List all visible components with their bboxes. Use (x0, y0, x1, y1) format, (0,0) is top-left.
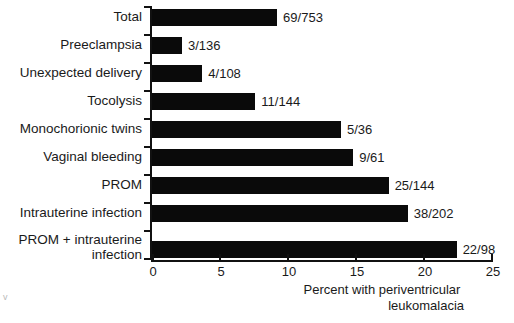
x-tick (151, 254, 153, 262)
category-tick (144, 202, 152, 204)
bar (152, 121, 341, 138)
bar-row: PROM + intrauterine infection22/98 (0, 232, 514, 260)
x-tick-label: 10 (269, 264, 309, 280)
bar (152, 9, 277, 26)
bar (152, 149, 353, 166)
category-axis-line (150, 8, 152, 260)
bar (152, 241, 457, 258)
category-label: Intrauterine infection (0, 205, 142, 220)
bar-row: Unexpected delivery4/108 (0, 64, 514, 92)
x-tick-label: 5 (201, 264, 241, 280)
bar (152, 205, 408, 222)
x-axis-title: Percent with periventricular leukomalaci… (282, 282, 482, 314)
bar-value-label: 38/202 (414, 205, 454, 222)
bar-row: Tocolysis11/144 (0, 92, 514, 120)
bar-row: Total69/753 (0, 8, 514, 36)
bar-row: Preeclampsia3/136 (0, 36, 514, 64)
bar-value-label: 5/36 (347, 121, 372, 138)
x-tick-label: 0 (133, 264, 173, 280)
bar (152, 65, 202, 82)
category-label: Tocolysis (0, 93, 142, 108)
category-tick (144, 118, 152, 120)
bar-value-label: 69/753 (283, 9, 323, 26)
category-tick (144, 34, 152, 36)
x-axis-title-line2: leukomalacia (282, 298, 482, 314)
x-tick (491, 254, 493, 262)
category-label: Preeclampsia (0, 37, 142, 52)
bar (152, 93, 255, 110)
x-tick-label: 25 (473, 264, 513, 280)
x-tick-label: 20 (405, 264, 445, 280)
bar-value-label: 25/144 (395, 177, 435, 194)
bar-row: PROM25/144 (0, 176, 514, 204)
x-tick (219, 254, 221, 262)
bar (152, 37, 182, 54)
category-tick (144, 62, 152, 64)
x-tick-label: 15 (337, 264, 377, 280)
category-tick (144, 6, 152, 8)
bar-row: Monochorionic twins5/36 (0, 120, 514, 148)
category-label: PROM (0, 177, 142, 192)
bar-row: Intrauterine infection38/202 (0, 204, 514, 232)
category-tick (144, 230, 152, 232)
category-label: Total (0, 9, 142, 24)
x-tick (355, 254, 357, 262)
bar-chart: Total69/753Preeclampsia3/136Unexpected d… (0, 0, 514, 323)
category-tick (144, 90, 152, 92)
x-axis-title-line1: Percent with periventricular (304, 282, 461, 297)
bar (152, 177, 389, 194)
category-tick (144, 174, 152, 176)
bar-value-label: 3/136 (188, 37, 221, 54)
category-label: Monochorionic twins (0, 121, 142, 136)
category-tick (144, 146, 152, 148)
bar-value-label: 11/144 (261, 93, 300, 110)
bar-value-label: 9/61 (359, 149, 384, 166)
x-tick (287, 254, 289, 262)
scan-artifact-mark: v (3, 293, 8, 302)
category-label: Unexpected delivery (0, 65, 142, 80)
bar-value-label: 4/108 (208, 65, 241, 82)
x-tick (423, 254, 425, 262)
value-axis-line (152, 260, 493, 262)
category-label: Vaginal bleeding (0, 149, 142, 164)
category-label: PROM + intrauterine infection (0, 232, 142, 262)
bar-row: Vaginal bleeding9/61 (0, 148, 514, 176)
